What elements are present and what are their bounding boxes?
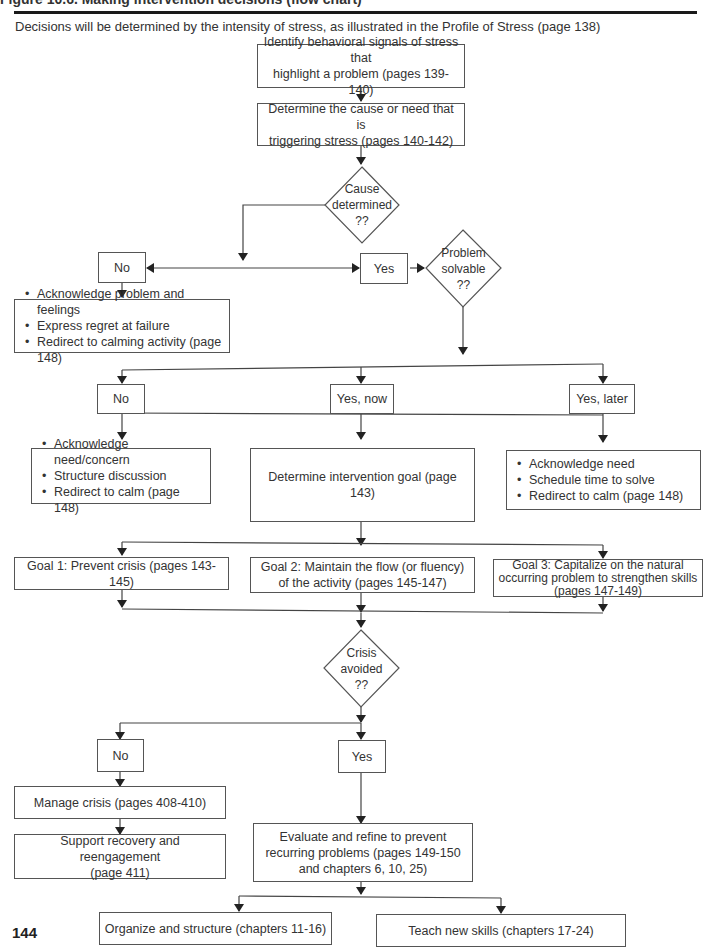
solvable-no-actions-list: Acknowledge need/concern Structure discu…	[42, 436, 206, 516]
list-item: Redirect to calming activity (page 148)	[25, 334, 225, 366]
cause-no-actions-box: Acknowledge problem and feelings Express…	[14, 299, 230, 353]
crisis-yes-box: Yes	[338, 740, 386, 773]
goal-3-line-2: occurring problem to strengthen skills	[499, 572, 698, 585]
goal-2-box: Goal 2: Maintain the flow (or fluency) o…	[250, 557, 475, 593]
determine-line-1: Determine the cause or need that is	[262, 101, 460, 133]
solvable-decision-line-2: solvable	[441, 261, 485, 277]
list-item: Redirect to calm (page 148)	[517, 488, 683, 504]
solvable-yes-now-box: Yes, now	[330, 384, 394, 414]
solvable-yes-now-label: Yes, now	[337, 391, 387, 407]
list-item: Acknowledge need/concern	[42, 436, 206, 468]
goal-2-line-2: of the activity (pages 145-147)	[278, 575, 446, 591]
manage-crisis-box: Manage crisis (pages 408-410)	[14, 786, 226, 819]
crisis-no-label: No	[113, 748, 129, 764]
list-item: Express regret at failure	[25, 318, 225, 334]
cause-no-actions-list: Acknowledge problem and feelings Express…	[25, 286, 225, 366]
cause-decision-line-2: determined	[332, 197, 392, 213]
evaluate-refine-box: Evaluate and refine to prevent recurring…	[253, 823, 473, 882]
page-number: 144	[12, 924, 37, 941]
solvable-no-label: No	[113, 391, 129, 407]
evaluate-line-3: and chapters 6, 10, 25)	[299, 861, 428, 877]
support-line-2: (page 411)	[90, 865, 150, 881]
solvable-yes-later-box: Yes, later	[569, 384, 635, 414]
cause-yes-label: Yes	[374, 261, 394, 277]
teach-skills-box: Teach new skills (chapters 17-24)	[376, 914, 626, 947]
goal-3-box: Goal 3: Capitalize on the natural occurr…	[493, 559, 703, 597]
support-line-1: Support recovery and reengagement	[19, 833, 221, 865]
cause-decision-line-1: Cause	[345, 181, 380, 197]
crisis-decision-line-3: ??	[355, 677, 368, 693]
list-item: Acknowledge need	[517, 456, 683, 472]
goal-1-label: Goal 1: Prevent crisis (pages 143-145)	[19, 558, 224, 590]
determine-cause-box: Determine the cause or need that is trig…	[257, 103, 465, 146]
support-recovery-box: Support recovery and reengagement (page …	[14, 834, 226, 879]
list-item: Redirect to calm (page 148)	[42, 484, 206, 516]
cause-no-box: No	[98, 252, 146, 283]
solvable-later-actions-box: Acknowledge need Schedule time to solve …	[506, 450, 701, 510]
manage-crisis-label: Manage crisis (pages 408-410)	[34, 795, 206, 811]
crisis-decision-line-1: Crisis	[347, 645, 377, 661]
crisis-yes-label: Yes	[352, 749, 372, 765]
crisis-no-box: No	[97, 739, 144, 772]
intervention-goal-box: Determine intervention goal (page 143)	[250, 448, 475, 522]
list-item: Acknowledge problem and feelings	[25, 286, 225, 318]
intervention-goal-label: Determine intervention goal (page 143)	[255, 469, 470, 501]
organize-structure-box: Organize and structure (chapters 11-16)	[99, 912, 332, 945]
crisis-avoided-decision: Crisis avoided ??	[323, 629, 400, 708]
evaluate-line-1: Evaluate and refine to prevent	[280, 829, 447, 845]
identify-signals-box: Identify behavioral signals of stress th…	[257, 44, 465, 88]
list-item: Structure discussion	[42, 468, 206, 484]
goal-3-line-1: Goal 3: Capitalize on the natural	[512, 559, 683, 572]
cause-yes-box: Yes	[360, 253, 408, 284]
list-item: Schedule time to solve	[517, 472, 683, 488]
solvable-decision-line-3: ??	[457, 277, 470, 293]
solvable-yes-later-label: Yes, later	[576, 391, 628, 407]
determine-line-2: triggering stress (pages 140-142)	[269, 133, 453, 149]
goal-2-line-1: Goal 2: Maintain the flow (or fluency)	[261, 559, 465, 575]
cause-no-label: No	[114, 260, 130, 276]
goal-1-box: Goal 1: Prevent crisis (pages 143-145)	[14, 557, 229, 590]
solvable-no-box: No	[97, 384, 145, 414]
teach-label: Teach new skills (chapters 17-24)	[408, 923, 594, 939]
cause-determined-decision: Cause determined ??	[324, 166, 400, 244]
identify-line-1: Identify behavioral signals of stress th…	[262, 34, 460, 66]
evaluate-line-2: recurring problems (pages 149-150	[265, 845, 460, 861]
solvable-decision-line-1: Problem	[441, 245, 486, 261]
identify-line-2: highlight a problem (pages 139-140)	[262, 66, 460, 98]
crisis-decision-line-2: avoided	[340, 661, 382, 677]
solvable-later-actions-list: Acknowledge need Schedule time to solve …	[517, 456, 683, 504]
cause-decision-line-3: ??	[355, 213, 368, 229]
problem-solvable-decision: Problem solvable ??	[425, 229, 502, 308]
solvable-no-actions-box: Acknowledge need/concern Structure discu…	[31, 448, 211, 504]
goal-3-line-3: (pages 147-149)	[554, 585, 642, 598]
organize-label: Organize and structure (chapters 11-16)	[105, 921, 326, 937]
